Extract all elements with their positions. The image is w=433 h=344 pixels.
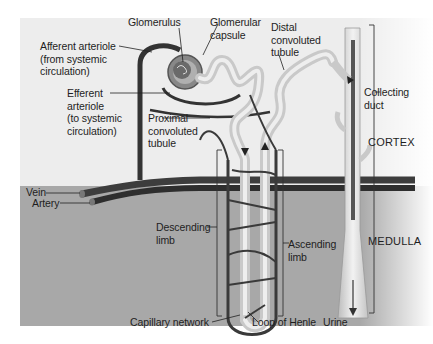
label-capillary-network: Capillary network (130, 316, 209, 329)
label-proximal-convoluted-tubule: Proximal convoluted tubule (148, 112, 198, 150)
label-ascending-limb: Ascending limb (288, 238, 336, 263)
label-loop-of-henle: Loop of Henle (252, 316, 316, 329)
region-label-medulla: MEDULLA (368, 235, 421, 247)
label-glomerulus: Glomerulus (128, 16, 181, 29)
label-urine: Urine (323, 316, 348, 329)
label-collecting-duct: Collecting duct (364, 86, 409, 111)
label-descending-limb: Descending limb (156, 221, 210, 246)
label-afferent-arteriole: Afferent arteriole (from systemic circul… (40, 40, 116, 78)
label-glomerular-capsule: Glomerular capsule (210, 16, 261, 41)
label-distal-convoluted-tubule: Distal convoluted tubule (271, 21, 321, 59)
label-efferent-arteriole: Efferent arteriole (to systemic circulat… (67, 87, 122, 137)
nephron-diagram: Glomerulus Glomerular capsule Distal con… (0, 0, 433, 344)
glomerulus (173, 61, 191, 79)
region-label-cortex: CORTEX (368, 136, 415, 148)
label-artery: Artery (32, 197, 59, 210)
